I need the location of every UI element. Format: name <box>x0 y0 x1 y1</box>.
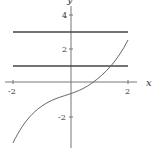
x-axis-label: x <box>146 77 152 88</box>
y-tick-label-4: 4 <box>62 11 67 20</box>
x-tick-label-neg2: -2 <box>8 87 16 96</box>
y-tick-label-neg2: -2 <box>58 113 66 122</box>
chart: -2 2 4 2 -2 x y <box>0 0 155 150</box>
x-tick-label-2: 2 <box>125 87 130 96</box>
chart-svg: -2 2 4 2 -2 x y <box>0 0 155 150</box>
y-tick-label-2: 2 <box>62 45 67 54</box>
y-axis-label: y <box>66 0 73 5</box>
